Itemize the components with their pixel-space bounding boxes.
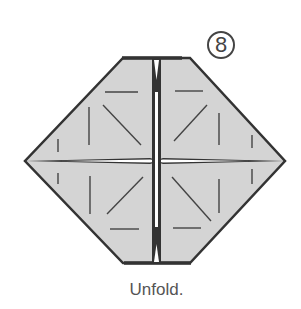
step-number-badge: 8 bbox=[207, 31, 235, 59]
instruction-caption: Unfold. bbox=[0, 280, 301, 300]
origami-diagram bbox=[0, 0, 301, 309]
